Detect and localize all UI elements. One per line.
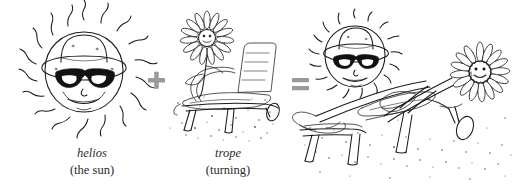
- illustration-canvas: helios (the sun): [0, 0, 520, 195]
- caption-root-trope: trope: [215, 146, 241, 160]
- caption-gloss-trope: (turning): [206, 163, 250, 177]
- caption-root-helios: helios: [77, 146, 107, 160]
- caption-gloss-helios: (the sun): [70, 163, 114, 177]
- etymology-figure: helios (the sun): [0, 0, 520, 195]
